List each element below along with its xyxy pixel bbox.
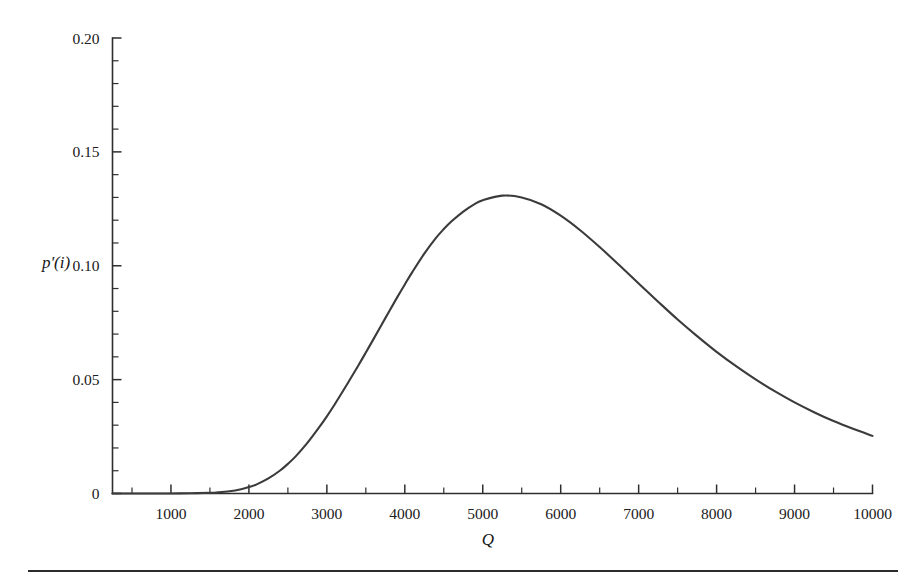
x-axis-title: Q [482, 530, 494, 549]
chart-plot-area: 00.050.100.150.20 1000200030004000500060… [0, 0, 917, 584]
x-tick-label: 8000 [701, 505, 732, 522]
y-tick-label: 0 [92, 485, 100, 502]
x-tick-label: 4000 [389, 505, 420, 522]
data-series-curve [113, 195, 873, 493]
axes-group [113, 38, 873, 494]
x-tick-label: 9000 [779, 505, 810, 522]
x-tick-label: 5000 [467, 505, 498, 522]
y-tick-label: 0.20 [72, 30, 99, 47]
x-tick-label: 6000 [545, 505, 576, 522]
x-tick-label: 2000 [233, 505, 264, 522]
x-tick-label: 3000 [311, 505, 342, 522]
y-axis-title: p'(i) [41, 253, 71, 272]
x-axis-tick-labels: 1000200030004000500060007000800090001000… [155, 505, 892, 522]
chart-figure: 00.050.100.150.20 1000200030004000500060… [0, 0, 917, 584]
footer-rule [28, 570, 898, 572]
x-tick-label: 7000 [623, 505, 654, 522]
x-tick-label: 1000 [155, 505, 186, 522]
y-axis-ticks [113, 38, 122, 494]
y-axis-tick-labels: 00.050.100.150.20 [72, 30, 99, 503]
y-tick-label: 0.05 [72, 371, 99, 388]
x-tick-label: 10000 [853, 505, 892, 522]
y-tick-label: 0.10 [72, 257, 99, 274]
y-tick-label: 0.15 [72, 143, 99, 160]
